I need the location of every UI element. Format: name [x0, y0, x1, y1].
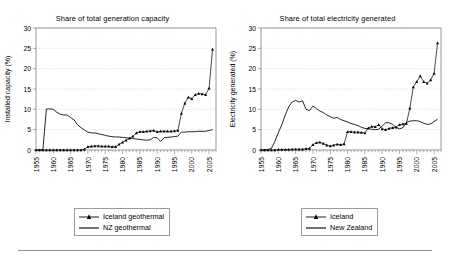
- plot-area-electricity: 0510152025301955196019651970197519801985…: [225, 22, 450, 202]
- xtick-label-1995: 1995: [396, 157, 403, 172]
- legend-electricity: Iceland New Zealand: [301, 208, 378, 236]
- series-line-0: [261, 43, 438, 150]
- legend-item-iceland: Iceland: [305, 211, 372, 222]
- figure-container: Share of total generation capacity 05101…: [0, 0, 450, 259]
- legend-label-new-zealand: New Zealand: [330, 223, 372, 232]
- ytick-label-25: 25: [248, 45, 256, 52]
- xtick-label-1955: 1955: [258, 157, 265, 172]
- xtick-label-1980: 1980: [344, 157, 351, 172]
- xtick-label-2000: 2000: [188, 157, 195, 172]
- xtick-label-1990: 1990: [379, 157, 386, 172]
- ytick-label-10: 10: [248, 106, 256, 113]
- series-line-1: [36, 109, 213, 150]
- ytick-label-5: 5: [252, 126, 256, 133]
- legend-item-iceland-geothermal: Iceland geothermal: [78, 211, 164, 222]
- xtick-label-1955: 1955: [33, 157, 40, 172]
- xtick-label-1970: 1970: [85, 157, 92, 172]
- legend-key-marker-line-icon: [78, 212, 100, 222]
- ytick-label-30: 30: [23, 25, 31, 32]
- ytick-label-30: 30: [248, 25, 256, 32]
- xtick-label-1965: 1965: [67, 157, 74, 172]
- legend-item-nz-geothermal: NZ geothermal: [78, 222, 164, 233]
- chart-panel-electricity: Share of total electricity generated 051…: [225, 0, 450, 247]
- plot-area-capacity: 0510152025301955196019651970197519801985…: [0, 22, 225, 202]
- series-marker-0: [183, 102, 186, 105]
- xtick-label-1960: 1960: [50, 157, 57, 172]
- xtick-label-2005: 2005: [206, 157, 213, 172]
- y-axis-title: Electricity generated (%): [229, 51, 237, 127]
- legend-key-line-icon: [305, 223, 327, 233]
- xtick-label-2005: 2005: [431, 157, 438, 172]
- series-marker-0: [187, 96, 190, 99]
- ytick-label-10: 10: [23, 106, 31, 113]
- legend-capacity: Iceland geothermal NZ geothermal: [74, 208, 170, 236]
- xtick-label-1960: 1960: [275, 157, 282, 172]
- xtick-label-1965: 1965: [292, 157, 299, 172]
- ytick-label-25: 25: [23, 45, 31, 52]
- xtick-label-1975: 1975: [327, 157, 334, 172]
- ytick-label-15: 15: [23, 86, 31, 93]
- series-marker-0: [436, 42, 439, 45]
- ytick-label-20: 20: [23, 65, 31, 72]
- series-marker-0: [121, 141, 124, 144]
- xtick-label-1985: 1985: [136, 157, 143, 172]
- legend-key-line-icon: [78, 223, 100, 233]
- ytick-label-5: 5: [27, 126, 31, 133]
- legend-label-nz-geothermal: NZ geothermal: [103, 223, 151, 232]
- chart-panel-capacity: Share of total generation capacity 05101…: [0, 0, 225, 247]
- series-marker-0: [419, 74, 422, 77]
- y-axis-title: Installed capacity (%): [4, 56, 12, 123]
- xtick-label-1985: 1985: [361, 157, 368, 172]
- ytick-label-0: 0: [27, 147, 31, 154]
- series-marker-0: [180, 112, 183, 115]
- xtick-label-1990: 1990: [154, 157, 161, 172]
- ytick-label-15: 15: [248, 86, 256, 93]
- series-marker-0: [311, 143, 314, 146]
- legend-key-marker-line-icon: [305, 212, 327, 222]
- series-marker-0: [211, 48, 214, 51]
- ytick-label-20: 20: [248, 65, 256, 72]
- ytick-label-0: 0: [252, 147, 256, 154]
- footer-divider: [18, 250, 432, 251]
- xtick-label-1970: 1970: [310, 157, 317, 172]
- series-line-1: [261, 100, 438, 150]
- series-marker-0: [433, 72, 436, 75]
- xtick-label-1980: 1980: [119, 157, 126, 172]
- series-marker-0: [429, 79, 432, 82]
- series-marker-0: [118, 143, 121, 146]
- series-marker-0: [408, 107, 411, 110]
- series-marker-0: [377, 123, 380, 126]
- series-marker-0: [125, 139, 128, 142]
- legend-item-new-zealand: New Zealand: [305, 222, 372, 233]
- xtick-label-2000: 2000: [413, 157, 420, 172]
- legend-label-iceland-geothermal: Iceland geothermal: [103, 212, 164, 221]
- series-line-0: [36, 49, 213, 150]
- xtick-label-1975: 1975: [102, 157, 109, 172]
- series-marker-0: [208, 87, 211, 90]
- xtick-label-1995: 1995: [171, 157, 178, 172]
- legend-label-iceland: Iceland: [330, 212, 353, 221]
